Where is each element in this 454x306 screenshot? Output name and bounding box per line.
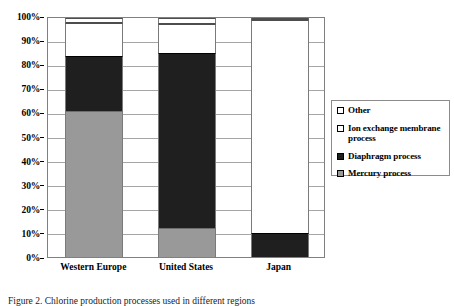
legend-item-label: Ion exchange membrane process [348, 123, 446, 144]
bar-segment[interactable] [158, 53, 216, 229]
y-axis-tick-label: 80% [22, 60, 40, 70]
column-slot [48, 18, 141, 257]
y-axis-tick-mark [40, 233, 44, 234]
y-axis-tick-label: 60% [22, 108, 40, 118]
y-axis-tick-mark [40, 161, 44, 162]
column-slot [141, 18, 234, 257]
bar-segment[interactable] [251, 233, 309, 257]
bar-segment[interactable] [65, 56, 123, 111]
legend-swatch-icon [337, 125, 344, 132]
x-axis-tick-label: United States [159, 262, 213, 272]
legend-item[interactable]: Diaphragm process [337, 151, 446, 162]
y-axis-tick-label: 40% [22, 157, 40, 167]
y-axis-tick-mark [40, 41, 44, 42]
legend-swatch-icon [337, 107, 344, 114]
y-axis-tick-label: 30% [22, 181, 40, 191]
stacked-bar[interactable] [158, 18, 216, 257]
plot-area [47, 17, 325, 258]
y-axis-tick-label: 0% [26, 253, 40, 263]
legend-swatch-icon [337, 153, 344, 160]
legend-item[interactable]: Mercury process [337, 168, 446, 179]
y-axis-tick-mark [40, 89, 44, 90]
legend-item-label: Mercury process [348, 168, 411, 179]
legend-item[interactable]: Other [337, 105, 446, 116]
bar-segment[interactable] [65, 111, 123, 257]
x-axis: Western EuropeUnited StatesJapan [47, 262, 325, 280]
y-axis-tick-label: 90% [22, 36, 40, 46]
legend-swatch-icon [337, 170, 344, 177]
bar-segment[interactable] [65, 23, 123, 56]
stacked-bar[interactable] [65, 18, 123, 257]
y-axis-tick-mark [40, 17, 44, 18]
y-axis-tick-mark [40, 258, 44, 259]
column-slot [233, 18, 326, 257]
y-axis-tick-label: 100% [17, 12, 40, 22]
stacked-bar-chart: 0%10%20%30%40%50%60%70%80%90%100% Wester… [0, 0, 454, 306]
bar-segment[interactable] [251, 20, 309, 233]
x-axis-tick-label: Japan [266, 262, 291, 272]
x-axis-tick-label: Western Europe [60, 262, 126, 272]
legend-item-label: Other [348, 105, 371, 116]
y-axis: 0%10%20%30%40%50%60%70%80%90%100% [0, 17, 44, 258]
y-axis-tick-label: 20% [22, 205, 40, 215]
y-axis-tick-mark [40, 65, 44, 66]
chart-legend: OtherIon exchange membrane processDiaphr… [331, 100, 450, 176]
y-axis-tick-mark [40, 209, 44, 210]
bar-segment[interactable] [158, 228, 216, 257]
y-axis-tick-mark [40, 137, 44, 138]
figure-caption: Figure 2. Chlorine production processes … [8, 296, 448, 306]
y-axis-tick-mark [40, 113, 44, 114]
y-axis-tick-mark [40, 185, 44, 186]
legend-item[interactable]: Ion exchange membrane process [337, 123, 446, 144]
legend-item-label: Diaphragm process [348, 151, 421, 162]
y-axis-tick-label: 50% [22, 133, 40, 143]
y-axis-tick-label: 10% [22, 229, 40, 239]
stacked-bar[interactable] [251, 18, 309, 257]
bar-segment[interactable] [158, 24, 216, 53]
y-axis-tick-label: 70% [22, 84, 40, 94]
